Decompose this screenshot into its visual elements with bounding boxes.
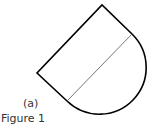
- figure-diagram: [0, 0, 158, 130]
- subfigure-label: (a): [23, 97, 38, 110]
- rectangle-semicircle-outline: [37, 5, 146, 114]
- divider-line: [67, 34, 132, 101]
- figure-caption: Figure 1: [1, 112, 45, 125]
